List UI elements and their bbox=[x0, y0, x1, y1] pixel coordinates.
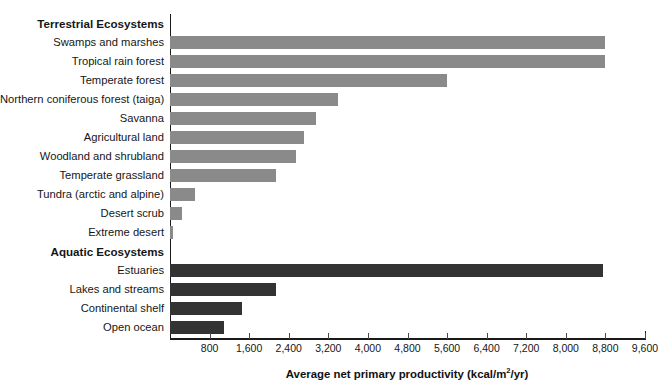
bar-savanna bbox=[170, 112, 316, 125]
x-tick-label: 5,600 bbox=[434, 342, 460, 354]
chart-row: Open ocean bbox=[0, 318, 654, 337]
group-header-label: Terrestrial Ecosystems bbox=[0, 14, 164, 33]
x-tick-label: 3,200 bbox=[315, 342, 341, 354]
x-tick-label: 7,200 bbox=[513, 342, 539, 354]
x-tick-label: 1,600 bbox=[236, 342, 262, 354]
x-tick-label: 4,000 bbox=[355, 342, 381, 354]
chart-row: Tropical rain forest bbox=[0, 52, 654, 71]
chart-row: Swamps and marshes bbox=[0, 33, 654, 52]
chart-row: Lakes and streams bbox=[0, 280, 654, 299]
x-tick-label: 4,800 bbox=[394, 342, 420, 354]
category-label: Desert scrub bbox=[0, 204, 164, 223]
chart-row: Temperate forest bbox=[0, 71, 654, 90]
group-header-label: Aquatic Ecosystems bbox=[0, 242, 164, 261]
x-tick bbox=[487, 333, 488, 339]
bar-open-ocean bbox=[170, 321, 224, 334]
chart-row: Agricultural land bbox=[0, 128, 654, 147]
bar-tropical-rain-forest bbox=[170, 55, 605, 68]
x-tick-label: 2,400 bbox=[276, 342, 302, 354]
bar-estuaries bbox=[170, 264, 603, 277]
x-tick bbox=[289, 333, 290, 339]
x-tick-label: 800 bbox=[201, 342, 219, 354]
x-tick bbox=[249, 333, 250, 339]
chart-row: Desert scrub bbox=[0, 204, 654, 223]
category-label: Savanna bbox=[0, 109, 164, 128]
x-tick bbox=[645, 333, 646, 339]
category-label: Northern coniferous forest (taiga) bbox=[0, 90, 164, 109]
chart-row: Savanna bbox=[0, 109, 654, 128]
x-tick bbox=[328, 333, 329, 339]
category-label: Agricultural land bbox=[0, 128, 164, 147]
x-axis-title-superscript: 2 bbox=[506, 366, 510, 375]
x-tick-label: 8,800 bbox=[592, 342, 618, 354]
x-axis-title: Average net primary productivity (kcal/m… bbox=[0, 366, 654, 380]
chart-row: Woodland and shrubland bbox=[0, 147, 654, 166]
bar-lakes-and-streams bbox=[170, 283, 276, 296]
x-tick bbox=[368, 333, 369, 339]
x-tick-label: 9,600 bbox=[632, 342, 658, 354]
x-tick bbox=[447, 333, 448, 339]
x-tick-label: 6,400 bbox=[474, 342, 500, 354]
bar-extreme-desert bbox=[170, 226, 173, 239]
x-tick bbox=[526, 333, 527, 339]
bar-tundra-arctic-and-alpine bbox=[170, 188, 195, 201]
chart-row: Continental shelf bbox=[0, 299, 654, 318]
bar-continental-shelf bbox=[170, 302, 242, 315]
category-label: Lakes and streams bbox=[0, 280, 164, 299]
category-label: Tropical rain forest bbox=[0, 52, 164, 71]
category-label: Extreme desert bbox=[0, 223, 164, 242]
category-label: Tundra (arctic and alpine) bbox=[0, 185, 164, 204]
bar-temperate-grassland bbox=[170, 169, 276, 182]
bar-agricultural-land bbox=[170, 131, 304, 144]
x-tick bbox=[408, 333, 409, 339]
bar-temperate-forest bbox=[170, 74, 447, 87]
chart-row: Tundra (arctic and alpine) bbox=[0, 185, 654, 204]
category-label: Temperate grassland bbox=[0, 166, 164, 185]
bar-northern-coniferous-forest-taiga bbox=[170, 93, 338, 106]
chart-row: Extreme desert bbox=[0, 223, 654, 242]
x-tick bbox=[210, 333, 211, 339]
chart-row: Estuaries bbox=[0, 261, 654, 280]
category-label: Swamps and marshes bbox=[0, 33, 164, 52]
bar-woodland-and-shrubland bbox=[170, 150, 296, 163]
chart-row: Northern coniferous forest (taiga) bbox=[0, 90, 654, 109]
chart-row: Temperate grassland bbox=[0, 166, 654, 185]
bar-swamps-and-marshes bbox=[170, 36, 605, 49]
x-tick bbox=[566, 333, 567, 339]
bar-desert-scrub bbox=[170, 207, 182, 220]
x-tick-label: 8,000 bbox=[553, 342, 579, 354]
group-header-row: Aquatic Ecosystems bbox=[0, 242, 654, 261]
category-label: Temperate forest bbox=[0, 71, 164, 90]
category-label: Open ocean bbox=[0, 318, 164, 337]
category-label: Continental shelf bbox=[0, 299, 164, 318]
category-label: Woodland and shrubland bbox=[0, 147, 164, 166]
x-tick bbox=[605, 333, 606, 339]
group-header-row: Terrestrial Ecosystems bbox=[0, 14, 654, 33]
category-label: Estuaries bbox=[0, 261, 164, 280]
